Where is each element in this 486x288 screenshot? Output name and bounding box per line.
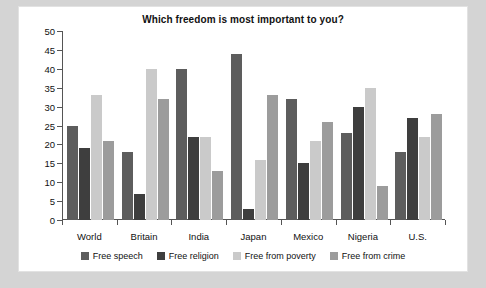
legend-item[interactable]: Free speech bbox=[81, 251, 143, 261]
bar-group: Japan bbox=[226, 31, 281, 220]
y-tick-label: 10 bbox=[33, 177, 55, 188]
legend-swatch-icon bbox=[81, 252, 89, 260]
bar bbox=[103, 141, 114, 220]
bar-group: Britain bbox=[117, 31, 172, 220]
x-tick bbox=[171, 220, 172, 225]
legend-label: Free religion bbox=[169, 251, 219, 261]
x-tick-label: India bbox=[171, 231, 226, 242]
y-tick-label: 15 bbox=[33, 158, 55, 169]
bar-group: U.S. bbox=[390, 31, 445, 220]
chart-card: Which freedom is most important to you? … bbox=[18, 6, 468, 272]
bar bbox=[267, 95, 278, 220]
x-tick-label: Britain bbox=[117, 231, 172, 242]
x-tick-label: U.S. bbox=[390, 231, 445, 242]
x-tick bbox=[390, 220, 391, 225]
bar bbox=[395, 152, 406, 220]
plot-area: 05101520253035404550 WorldBritainIndiaJa… bbox=[62, 31, 445, 220]
bar bbox=[67, 126, 78, 221]
bar bbox=[122, 152, 133, 220]
bar bbox=[310, 141, 321, 220]
y-tick-label: 0 bbox=[33, 215, 55, 226]
bar-group: Nigeria bbox=[336, 31, 391, 220]
y-tick-label: 45 bbox=[33, 44, 55, 55]
x-tick-label: Nigeria bbox=[336, 231, 391, 242]
bar bbox=[134, 194, 145, 220]
x-tick bbox=[336, 220, 337, 225]
y-tick-label: 50 bbox=[33, 26, 55, 37]
bar bbox=[341, 133, 352, 220]
bar bbox=[431, 114, 442, 220]
chart-legend: Free speechFree religionFree from povert… bbox=[19, 251, 467, 261]
bar bbox=[286, 99, 297, 220]
x-tick bbox=[62, 220, 63, 225]
legend-swatch-icon bbox=[233, 252, 241, 260]
bar bbox=[419, 137, 430, 220]
bar bbox=[243, 209, 254, 220]
bar bbox=[158, 99, 169, 220]
chart-screenshot: Which freedom is most important to you? … bbox=[0, 0, 486, 288]
legend-swatch-icon bbox=[330, 252, 338, 260]
bar bbox=[79, 148, 90, 220]
bar bbox=[377, 186, 388, 220]
legend-item[interactable]: Free from poverty bbox=[233, 251, 316, 261]
y-tick-label: 30 bbox=[33, 101, 55, 112]
x-tick bbox=[281, 220, 282, 225]
bar bbox=[365, 88, 376, 220]
bar bbox=[176, 69, 187, 220]
bar bbox=[91, 95, 102, 220]
x-tick bbox=[445, 220, 446, 225]
bar bbox=[353, 107, 364, 220]
bar bbox=[298, 163, 309, 220]
x-tick-label: World bbox=[62, 231, 117, 242]
x-tick-label: Japan bbox=[226, 231, 281, 242]
bar bbox=[188, 137, 199, 220]
bar bbox=[200, 137, 211, 220]
bar-group: World bbox=[62, 31, 117, 220]
bar bbox=[231, 54, 242, 220]
bar-group: Mexico bbox=[281, 31, 336, 220]
bar bbox=[146, 69, 157, 220]
y-tick-label: 35 bbox=[33, 82, 55, 93]
y-tick-label: 25 bbox=[33, 120, 55, 131]
x-tick bbox=[226, 220, 227, 225]
legend-label: Free speech bbox=[93, 251, 143, 261]
chart-title: Which freedom is most important to you? bbox=[19, 14, 467, 25]
x-tick bbox=[117, 220, 118, 225]
legend-swatch-icon bbox=[157, 252, 165, 260]
legend-item[interactable]: Free from crime bbox=[330, 251, 406, 261]
bar bbox=[255, 160, 266, 220]
x-tick-label: Mexico bbox=[281, 231, 336, 242]
legend-label: Free from poverty bbox=[245, 251, 316, 261]
bar-group: India bbox=[171, 31, 226, 220]
y-tick-label: 20 bbox=[33, 139, 55, 150]
bar bbox=[212, 171, 223, 220]
legend-label: Free from crime bbox=[342, 251, 406, 261]
bar bbox=[322, 122, 333, 220]
y-tick-label: 40 bbox=[33, 63, 55, 74]
bar bbox=[407, 118, 418, 220]
y-tick-label: 5 bbox=[33, 196, 55, 207]
legend-item[interactable]: Free religion bbox=[157, 251, 219, 261]
